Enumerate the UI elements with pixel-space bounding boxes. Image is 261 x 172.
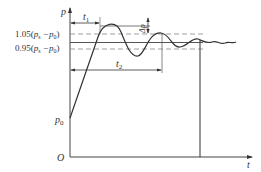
p0-label: p0 [54,114,64,127]
t2-label: t2 [116,58,123,71]
response-curve [70,24,236,118]
t1-label: t1 [83,11,90,24]
pressure-response-diagram: p t O p0 1.05(ps −p0) 0.95(ps −p0) t1 t2… [0,0,261,172]
y-axis-label: p [60,6,66,17]
origin-label: O [57,152,64,163]
x-axis-label: t [247,159,250,170]
lower-band-label: 0.95(ps −p0) [15,43,59,54]
overshoot-label: Δp [138,24,147,34]
upper-band-label: 1.05(ps −p0) [15,29,59,40]
